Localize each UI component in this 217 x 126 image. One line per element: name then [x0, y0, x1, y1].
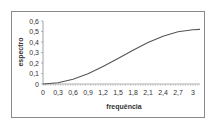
x-tick-label: 0,3	[53, 89, 63, 96]
x-tick-label: 3	[191, 89, 195, 96]
y-tick-label: 0	[35, 81, 39, 88]
x-tick-label: 2,4	[158, 89, 168, 96]
x-tick-label: 2,1	[143, 89, 153, 96]
y-axis: 00,10,20,30,40,50,6	[29, 18, 43, 88]
y-tick-label: 0,4	[29, 39, 39, 46]
y-tick-label: 0,6	[29, 18, 39, 25]
x-axis: 00,30,60,91,21,51,82,12,42,73	[41, 84, 200, 96]
y-tick-label: 0,3	[29, 49, 39, 56]
spectrum-curve	[43, 29, 200, 84]
chart-plot: 00,10,20,30,40,50,6 00,30,60,91,21,51,82…	[0, 0, 217, 126]
y-tick-label: 0,1	[29, 70, 39, 77]
x-tick-label: 0,6	[68, 89, 78, 96]
x-tick-label: 1,2	[98, 89, 108, 96]
x-tick-label: 1,8	[128, 89, 138, 96]
x-axis-title: frequência	[106, 103, 142, 111]
x-tick-label: 2,7	[173, 89, 183, 96]
x-tick-label: 1,5	[113, 89, 123, 96]
y-axis-title: espectro	[17, 37, 25, 66]
x-tick-label: 0,9	[83, 89, 93, 96]
y-tick-label: 0,2	[29, 60, 39, 67]
y-tick-label: 0,5	[29, 28, 39, 35]
x-tick-label: 0	[41, 89, 45, 96]
